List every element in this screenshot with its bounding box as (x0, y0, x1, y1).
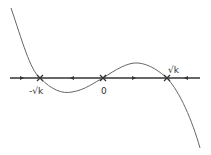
phase-line-diagram: -√k 0 √k (0, 0, 211, 155)
label-pos-root: √k (168, 65, 180, 75)
arrow-right-icon (20, 76, 24, 80)
label-zero: 0 (101, 86, 107, 96)
arrow-left-icon (70, 76, 74, 80)
label-neg-root: -√k (29, 86, 44, 96)
arrow-right-icon (132, 76, 136, 80)
arrow-left-icon (184, 76, 188, 80)
